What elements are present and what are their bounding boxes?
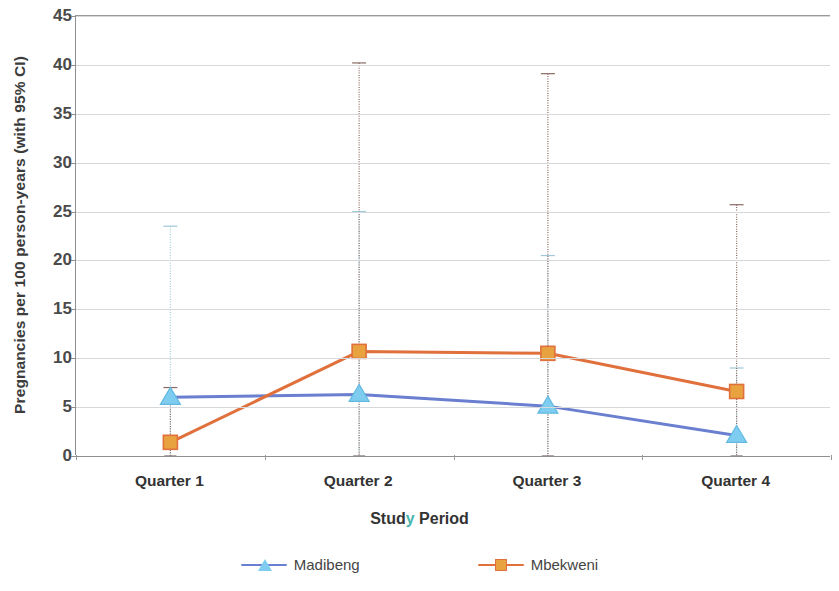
data-point-marker xyxy=(349,384,369,401)
x-axis-title: Study Period xyxy=(0,510,839,528)
y-axis-tick-labels: 051015202530354045 xyxy=(20,0,72,470)
y-axis-tick-label: 5 xyxy=(26,398,72,415)
y-axis-tick-label: 20 xyxy=(26,251,72,268)
gridline xyxy=(76,358,830,359)
legend-label: Mbekweni xyxy=(531,556,599,573)
gridline xyxy=(76,212,830,213)
x-axis-category-label: Quarter 1 xyxy=(135,472,204,490)
y-axis-tick-label: 10 xyxy=(26,349,72,366)
data-point-marker xyxy=(352,344,366,358)
y-axis-tick-mark xyxy=(71,212,76,213)
x-axis-title-artifact: y xyxy=(406,510,415,527)
y-axis-tick-label: 30 xyxy=(26,153,72,170)
gridline xyxy=(76,407,830,408)
y-axis-tick-mark xyxy=(71,309,76,310)
gridline xyxy=(76,65,830,66)
gridline xyxy=(76,114,830,115)
legend-swatch xyxy=(478,558,524,572)
x-axis-tick-mark xyxy=(831,455,832,460)
gridline xyxy=(76,163,830,164)
y-axis-tick-label: 0 xyxy=(26,447,72,464)
x-axis-category-label: Quarter 4 xyxy=(701,472,770,490)
y-axis-tick-label: 35 xyxy=(26,104,72,121)
x-axis-title-after: Period xyxy=(415,510,469,527)
y-axis-tick-label: 25 xyxy=(26,202,72,219)
y-axis-tick-mark xyxy=(71,260,76,261)
legend-item[interactable]: Mbekweni xyxy=(478,556,599,573)
chart-legend: MadibengMbekweni xyxy=(0,556,839,573)
gridline xyxy=(76,16,830,17)
y-axis-tick-label: 45 xyxy=(26,7,72,24)
legend-swatch xyxy=(241,558,287,572)
data-point-marker xyxy=(730,384,744,398)
chart-container: Pregnancies per 100 person-years (with 9… xyxy=(0,0,839,591)
y-axis-tick-label: 15 xyxy=(26,300,72,317)
series-layer xyxy=(76,16,831,456)
y-axis-tick-mark xyxy=(71,163,76,164)
x-axis-tick-mark xyxy=(642,455,643,460)
legend-square-marker-icon xyxy=(495,559,507,571)
y-axis-tick-mark xyxy=(71,65,76,66)
legend-label: Madibeng xyxy=(294,556,360,573)
y-axis-tick-mark xyxy=(71,407,76,408)
x-axis-tick-mark xyxy=(265,455,266,460)
x-axis-tick-mark xyxy=(454,455,455,460)
x-axis-title-before: Stud xyxy=(370,510,406,527)
data-point-marker xyxy=(163,435,177,449)
x-axis-category-label: Quarter 2 xyxy=(324,472,393,490)
gridline xyxy=(76,260,830,261)
y-axis-tick-mark xyxy=(71,16,76,17)
x-axis-category-label: Quarter 3 xyxy=(512,472,581,490)
plot-area xyxy=(75,15,830,455)
x-axis-tick-mark xyxy=(76,455,77,460)
gridline xyxy=(76,309,830,310)
y-axis-tick-mark xyxy=(71,358,76,359)
legend-item[interactable]: Madibeng xyxy=(241,556,360,573)
y-axis-tick-label: 40 xyxy=(26,55,72,72)
y-axis-tick-mark xyxy=(71,114,76,115)
legend-star-marker-icon xyxy=(258,559,272,571)
